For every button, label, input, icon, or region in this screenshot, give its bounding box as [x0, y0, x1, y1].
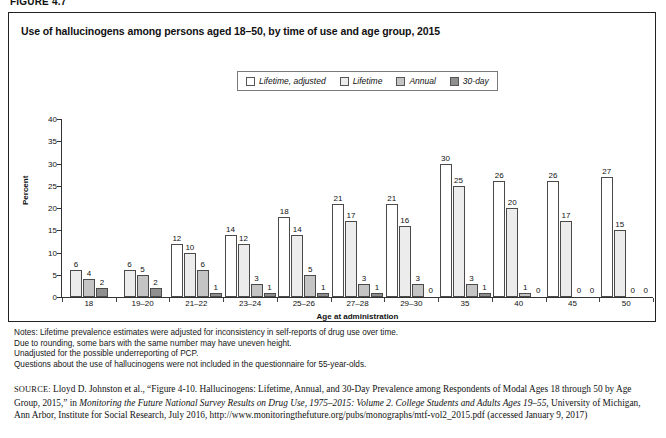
chart-source: SOURCE: Lloyd D. Johnston et al., “Figur… [14, 383, 658, 422]
x-tick-label: 50 [599, 299, 653, 308]
bar[interactable]: 26 [493, 181, 505, 297]
bar-value-label: 1 [523, 283, 527, 292]
bar-value-label: 2 [153, 278, 157, 287]
chart-title: Use of hallucinogens among persons aged … [21, 25, 440, 37]
bar[interactable]: 21 [386, 204, 398, 297]
y-tick-mark [57, 186, 61, 187]
legend-item-label: Annual [409, 76, 435, 86]
y-tick-mark [57, 297, 61, 298]
bar-group: 652 [116, 119, 170, 297]
bar[interactable]: 10 [184, 253, 196, 298]
x-tick-label: 18 [62, 299, 116, 308]
bar-group-bars: 121061 [169, 119, 223, 297]
bar[interactable]: 26 [547, 181, 559, 297]
bar[interactable]: 14 [225, 235, 237, 297]
bar[interactable]: 30 [440, 164, 452, 298]
bar-value-label: 14 [293, 225, 302, 234]
bar-value-label: 18 [280, 207, 289, 216]
note-line: Notes: Lifetime prevalence estimates wer… [14, 328, 654, 339]
bar[interactable]: 1 [317, 293, 329, 297]
bar-value-label: 1 [321, 283, 325, 292]
bar-value-label: 0 [630, 286, 634, 295]
bar-slot: 26 [547, 119, 559, 297]
bar[interactable]: 1 [264, 293, 276, 297]
bar-slot: 17 [345, 119, 357, 297]
x-tick-label: 29–30 [384, 299, 438, 308]
bar-slot: 20 [506, 119, 518, 297]
bar-value-label: 1 [482, 283, 486, 292]
x-axis-tick-labels: 1819–2021–2223–2425–2627–2829–3035404550 [62, 299, 653, 308]
bar[interactable]: 6 [197, 270, 209, 297]
bar-value-label: 17 [562, 211, 571, 220]
plot-area: Percent 0510152025303540 642652121061141… [9, 113, 657, 323]
bar[interactable]: 1 [210, 293, 222, 297]
bar-value-label: 15 [615, 220, 624, 229]
bar-slot: 26 [493, 119, 505, 297]
bar[interactable]: 4 [83, 279, 95, 297]
x-tick-mark [546, 298, 547, 302]
x-tick-mark [492, 298, 493, 302]
figure-box: Use of hallucinogens among persons aged … [8, 12, 656, 322]
bar[interactable]: 1 [519, 293, 531, 297]
x-tick-mark [438, 298, 439, 302]
bar-group-bars: 261700 [546, 119, 600, 297]
legend-item: 30-day [450, 76, 489, 86]
bar[interactable]: 18 [278, 217, 290, 297]
bar[interactable]: 12 [171, 244, 183, 297]
bar[interactable]: 25 [453, 186, 465, 297]
note-line: Due to rounding, some bars with the same… [14, 339, 654, 350]
bar[interactable]: 16 [399, 226, 411, 297]
bar[interactable]: 5 [137, 275, 149, 297]
bar-value-label: 14 [226, 225, 235, 234]
chart-legend: Lifetime, adjusted Lifetime Annual 30-da… [237, 71, 498, 91]
bar-slot: 5 [304, 119, 316, 297]
bar[interactable]: 6 [124, 270, 136, 297]
y-tick-label: 35 [48, 137, 57, 146]
bar-slot: 3 [251, 119, 263, 297]
bar-value-label: 6 [201, 260, 205, 269]
bar[interactable]: 5 [304, 275, 316, 297]
bar[interactable]: 15 [614, 230, 626, 297]
bar[interactable]: 2 [96, 288, 108, 297]
bar[interactable]: 1 [371, 293, 383, 297]
bar-value-label: 1 [375, 283, 379, 292]
bar[interactable]: 6 [70, 270, 82, 297]
bar[interactable]: 14 [291, 235, 303, 297]
y-tick-mark [57, 208, 61, 209]
bar[interactable]: 20 [506, 208, 518, 297]
x-tick-label: 21–22 [169, 299, 223, 308]
bar-group-bars: 141231 [223, 119, 277, 297]
y-tick-mark [57, 119, 61, 120]
bar-value-label: 1 [214, 283, 218, 292]
bar[interactable]: 21 [332, 204, 344, 297]
square-swatch-icon [396, 77, 405, 86]
bar[interactable]: 17 [560, 221, 572, 297]
bar-slot: 6 [124, 119, 136, 297]
bar-value-label: 0 [536, 286, 540, 295]
bar[interactable]: 3 [412, 284, 424, 297]
x-tick-label: 25–26 [277, 299, 331, 308]
bar-group: 141231 [223, 119, 277, 297]
bar[interactable]: 3 [251, 284, 263, 297]
bar-value-label: 5 [308, 265, 312, 274]
bar-slot: 21 [386, 119, 398, 297]
bar-slot: 3 [412, 119, 424, 297]
bar-slot: 1 [264, 119, 276, 297]
bar-slot: 3 [358, 119, 370, 297]
bar-slot: 4 [83, 119, 95, 297]
bar[interactable]: 1 [479, 293, 491, 297]
bar-value-label: 2 [100, 278, 104, 287]
x-axis-label: Age at administration [62, 312, 653, 321]
bar[interactable]: 12 [238, 244, 250, 297]
x-tick-mark [62, 298, 63, 302]
bar[interactable]: 3 [358, 284, 370, 297]
square-swatch-icon [340, 77, 349, 86]
bar[interactable]: 17 [345, 221, 357, 297]
bar[interactable]: 27 [601, 177, 613, 297]
x-tick-label: 23–24 [223, 299, 277, 308]
bar[interactable]: 2 [150, 288, 162, 297]
x-tick-label: 45 [546, 299, 600, 308]
bar[interactable]: 3 [466, 284, 478, 297]
bar-slot: 6 [197, 119, 209, 297]
x-tick-mark [277, 298, 278, 302]
